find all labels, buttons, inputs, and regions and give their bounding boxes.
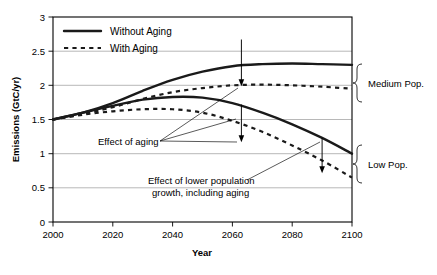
y-tick-label-2_5: 2.5 (32, 46, 45, 57)
legend: Without Aging With Aging (64, 26, 172, 54)
y-axis-title: Emissions (GtC/yr) (10, 77, 21, 163)
x-axis-ticks (53, 222, 352, 227)
bracket-medium-pop: Medium Pop. (353, 64, 424, 102)
y-tick-label-3: 3 (40, 12, 45, 23)
annotation-lower-population-line2: growth, including aging (152, 187, 249, 198)
x-tick-label-2100: 2100 (341, 229, 362, 240)
arrow-population-gap-low (319, 138, 325, 173)
annotation-lower-population-line1: Effect of lower population (148, 175, 255, 186)
annotation-effect-of-aging: Effect of aging (98, 136, 159, 147)
data-series-group (53, 63, 352, 177)
y-tick-label-1: 1 (40, 148, 45, 159)
x-axis-title: Year (192, 247, 212, 258)
y-tick-label-0_5: 0.5 (32, 182, 45, 193)
x-tick-label-2000: 2000 (42, 229, 63, 240)
y-tick-label-0: 0 (40, 217, 45, 228)
y-tick-label-2: 2 (40, 80, 45, 91)
bracket-low-pop: Low Pop. (353, 145, 408, 183)
gap-arrows (239, 40, 325, 174)
effect-of-lower-population-leader (247, 142, 320, 180)
y-tick-label-1_5: 1.5 (32, 114, 45, 125)
legend-label-without-aging: Without Aging (110, 26, 172, 37)
x-tick-label-2060: 2060 (222, 229, 243, 240)
arrow-aging-gap-medium (239, 40, 245, 87)
bracket-label-low-pop: Low Pop. (368, 159, 408, 170)
x-tick-label-2080: 2080 (282, 229, 303, 240)
chart-figure: 3 2.5 2 1.5 1 0.5 0 Emissions (GtC/yr) 2… (0, 0, 437, 275)
x-tick-label-2020: 2020 (102, 229, 123, 240)
legend-label-with-aging: With Aging (110, 43, 158, 54)
bracket-label-medium-pop: Medium Pop. (368, 78, 424, 89)
series-medium-pop-with-aging (53, 85, 352, 120)
x-tick-label-2040: 2040 (162, 229, 183, 240)
emissions-line-chart: 3 2.5 2 1.5 1 0.5 0 Emissions (GtC/yr) 2… (0, 0, 437, 275)
